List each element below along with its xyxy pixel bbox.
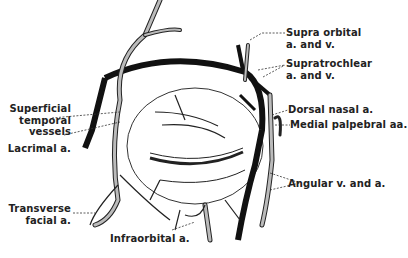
superficial-temporal-vein xyxy=(85,78,105,148)
label-dorsal-nasal: Dorsal nasal a. xyxy=(288,104,373,116)
label-line: Supra orbital xyxy=(286,27,361,39)
label-infraorbital: Infraorbital a. xyxy=(110,233,190,245)
label-supraorbital: Supra orbital a. and v. xyxy=(286,27,361,50)
label-line: a. and v. xyxy=(286,39,361,51)
label-line: Superficial xyxy=(0,103,71,115)
label-supratrochlear: Supratrochlear a. and v. xyxy=(286,58,372,81)
label-angular: Angular v. and a. xyxy=(288,178,385,190)
label-line: Supratrochlear xyxy=(286,58,372,70)
angular-vein xyxy=(105,61,262,240)
orbit-outline xyxy=(127,88,263,204)
orbital-vessels-diagram: Supra orbital a. and v. Supratrochlear a… xyxy=(0,0,408,258)
label-line: vessels xyxy=(0,126,71,138)
label-superficial-temporal: Superficial temporal vessels xyxy=(0,103,71,138)
label-medial-palpebral: Medial palpebral aa. xyxy=(290,119,407,131)
label-line: a. and v. xyxy=(286,70,372,82)
label-lacrimal: Lacrimal a. xyxy=(0,143,71,155)
label-transverse-facial: Transverse facial a. xyxy=(0,203,71,226)
label-line: facial a. xyxy=(0,215,71,227)
label-line: temporal xyxy=(0,115,71,127)
label-line: Transverse xyxy=(0,203,71,215)
